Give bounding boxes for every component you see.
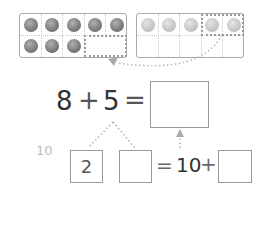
- part1-box[interactable]: 2: [70, 150, 103, 183]
- addend-a: 8: [56, 86, 73, 116]
- result-box[interactable]: [218, 150, 252, 183]
- equals-sign-2: =: [156, 153, 173, 177]
- part2-box[interactable]: [119, 150, 152, 183]
- ten-hint-label: 10: [36, 143, 53, 158]
- ten-value: 10: [176, 153, 201, 177]
- arrowhead-up-icon: [176, 129, 184, 137]
- arrowhead-icon: [108, 57, 118, 66]
- equals-sign: =: [124, 85, 146, 115]
- addend-b: 5: [103, 86, 120, 116]
- plus-sign-2: +: [200, 152, 217, 176]
- plus-sign: +: [78, 85, 100, 115]
- answer-box[interactable]: [150, 81, 209, 128]
